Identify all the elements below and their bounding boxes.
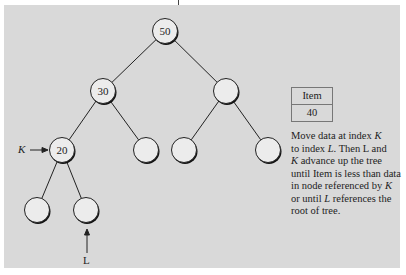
description-text: Move data at index K to index L. Then L …	[291, 130, 403, 218]
item-box-value: 40	[292, 105, 332, 121]
l-pointer-label: L	[83, 254, 90, 266]
node-label-20: 20	[49, 142, 75, 158]
desc-part: to index	[291, 143, 328, 154]
tree-edges	[37, 31, 268, 210]
desc-k: K	[374, 130, 381, 141]
item-box: Item 40	[291, 87, 333, 122]
desc-part: Move data at index	[291, 130, 374, 141]
tree-nodes	[25, 19, 282, 225]
l-pointer-arrow	[85, 229, 90, 253]
node-empty	[256, 138, 282, 165]
item-box-header: Item	[292, 88, 332, 105]
node-label-root: 50	[152, 23, 178, 39]
desc-k: K	[291, 155, 298, 166]
k-pointer-label: K	[18, 143, 25, 155]
node-empty	[74, 198, 100, 225]
node-empty	[134, 138, 160, 165]
node-empty	[172, 138, 198, 165]
k-pointer-arrow	[30, 148, 48, 153]
desc-k: K	[385, 180, 392, 191]
desc-part: or until	[291, 193, 324, 204]
node-label-30: 30	[90, 83, 116, 99]
node-empty	[25, 198, 51, 225]
desc-part: . Then L and	[334, 143, 387, 154]
node-empty	[214, 79, 240, 106]
